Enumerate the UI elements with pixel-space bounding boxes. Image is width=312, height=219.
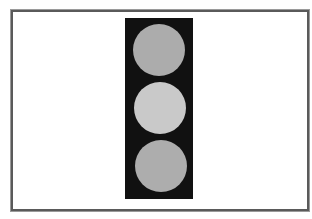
bottom-lamp	[135, 140, 187, 192]
traffic-light-housing	[125, 18, 193, 199]
top-lamp	[133, 24, 185, 76]
figure-canvas	[0, 0, 312, 219]
middle-lamp	[134, 82, 186, 134]
